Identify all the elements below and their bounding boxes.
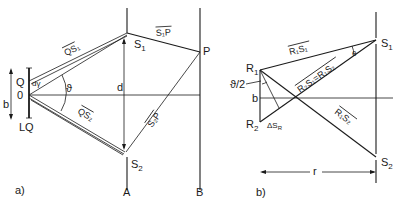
label-screen-a: A	[123, 186, 131, 198]
delta-sr-perp	[260, 70, 279, 108]
label-screen-b: B	[196, 186, 203, 198]
label-s1p: S₁P	[156, 26, 173, 38]
panel-a: S1 S2 P Q 0 b LQ d ϑ dγ A B a) QS₁ QS₂ S…	[3, 8, 210, 198]
interference-diagram: S1 S2 P Q 0 b LQ d ϑ dγ A B a) QS₁ QS₂ S…	[0, 0, 403, 206]
label-dphi: dγ	[32, 79, 40, 88]
caption-a: a)	[15, 184, 25, 196]
label-s1-b: S1	[381, 37, 393, 52]
label-r1s1: R₁S₁	[288, 41, 312, 57]
ray-o-s2	[29, 95, 125, 152]
label-half-theta: ϑ/2	[230, 78, 245, 90]
svg-text:S₁P: S₁P	[156, 27, 172, 38]
svg-text:QS₂: QS₂	[76, 106, 96, 123]
label-r1: R1	[246, 62, 259, 77]
panel-b: S1 S2 R1 R2 b ϑ/2 θ ΔSR r b) R₁S₁ R₂S₁=R…	[230, 12, 393, 198]
label-s2: S2	[131, 158, 143, 173]
label-s1: S1	[134, 38, 146, 53]
label-b: b	[3, 98, 9, 110]
label-q: Q	[16, 76, 25, 88]
ray-s2-p	[126, 52, 200, 152]
label-qs1: QS₁	[62, 41, 81, 58]
svg-text:S₂P: S₂P	[145, 111, 162, 129]
ray-r1-s2	[260, 70, 376, 157]
label-lq: LQ	[19, 121, 34, 133]
label-d: d	[117, 81, 123, 93]
label-theta: ϑ	[66, 82, 72, 94]
label-theta-b: θ	[352, 49, 357, 58]
svg-text:QS₁: QS₁	[62, 42, 81, 58]
label-r1s2: R₁S₂	[333, 106, 357, 128]
label-qs2: QS₂	[76, 105, 96, 123]
label-r2s1-eq-r1s2: R₂S₁=R₁S₂	[295, 57, 342, 95]
caption-b: b)	[256, 186, 266, 198]
svg-text:R₁S₁: R₁S₁	[288, 43, 308, 57]
ray-q-s1	[29, 33, 127, 81]
label-s2p: S₂P	[145, 110, 163, 129]
label-o: 0	[17, 89, 23, 101]
svg-text:R₁S₂: R₁S₂	[333, 107, 355, 127]
label-p: P	[203, 45, 210, 57]
label-delta-sr: ΔSR	[267, 121, 283, 131]
label-b-b: b	[252, 92, 258, 104]
ray-r1-s1	[260, 40, 376, 70]
label-r: r	[313, 165, 317, 177]
label-s2-b: S2	[381, 156, 393, 171]
label-r2: R2	[246, 118, 259, 133]
svg-text:R₂S₁=R₁S₂: R₂S₁=R₁S₂	[295, 61, 337, 94]
